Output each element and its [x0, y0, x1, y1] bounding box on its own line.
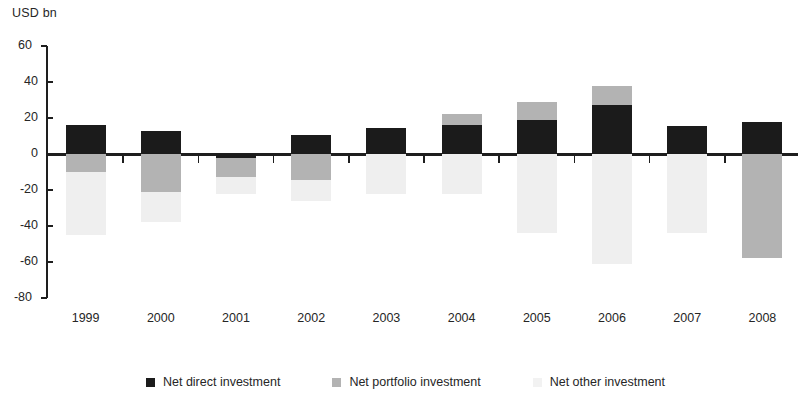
bar-segment-other	[291, 180, 331, 201]
bar-segment-portfolio	[742, 154, 782, 258]
x-axis-label-2008: 2008	[748, 312, 776, 325]
bar-group	[667, 46, 707, 298]
x-tick	[348, 156, 350, 163]
x-axis-label-2002: 2002	[297, 312, 325, 325]
legend-swatch-direct-icon	[146, 378, 155, 387]
bars-layer	[46, 46, 798, 298]
bar-segment-direct	[517, 120, 557, 154]
bar-segment-direct	[442, 125, 482, 154]
bar-group	[517, 46, 557, 298]
legend-swatch-other-icon	[533, 378, 542, 387]
x-tick	[423, 156, 425, 163]
x-axis-labels: 1999200020012002200320042005200620072008	[46, 312, 798, 334]
x-tick	[574, 156, 576, 163]
y-axis-unit-caption: USD bn	[12, 6, 57, 20]
bar-segment-direct	[366, 128, 406, 154]
bar-segment-portfolio	[141, 154, 181, 192]
bar-group	[742, 46, 782, 298]
y-tick-label: 20	[24, 111, 38, 124]
x-axis-label-1999: 1999	[72, 312, 100, 325]
bar-segment-direct	[291, 135, 331, 154]
legend-label: Net other investment	[550, 376, 665, 389]
bar-segment-other	[366, 154, 406, 194]
bar-segment-portfolio	[517, 102, 557, 120]
bar-segment-portfolio	[216, 158, 256, 178]
legend-item-other: Net other investment	[533, 376, 665, 389]
legend-label: Net portfolio investment	[349, 376, 480, 389]
x-tick	[122, 156, 124, 163]
y-tick-label: -60	[20, 255, 38, 268]
bar-segment-other	[442, 154, 482, 194]
bar-segment-other	[141, 192, 181, 223]
x-tick	[498, 156, 500, 163]
bar-segment-portfolio	[442, 114, 482, 125]
bar-group	[291, 46, 331, 298]
y-tick-label: 40	[24, 75, 38, 88]
x-axis-label-2004: 2004	[448, 312, 476, 325]
bar-segment-direct	[66, 125, 106, 154]
x-axis-label-2005: 2005	[523, 312, 551, 325]
x-tick	[649, 156, 651, 163]
bar-segment-other	[667, 154, 707, 233]
bar-segment-direct	[592, 105, 632, 154]
chart-legend: Net direct investmentNet portfolio inves…	[0, 376, 811, 389]
bar-group	[366, 46, 406, 298]
bar-segment-direct	[742, 122, 782, 154]
legend-item-direct: Net direct investment	[146, 376, 280, 389]
bar-segment-direct	[667, 126, 707, 154]
x-tick	[273, 156, 275, 163]
bar-segment-direct	[141, 131, 181, 154]
bar-group	[592, 46, 632, 298]
y-tick-label: 60	[18, 39, 32, 52]
x-axis-label-2007: 2007	[673, 312, 701, 325]
x-tick	[198, 156, 200, 163]
y-tick-label: -20	[20, 183, 38, 196]
y-tick-label: -80	[14, 291, 32, 304]
x-axis-label-2003: 2003	[372, 312, 400, 325]
bar-segment-portfolio	[66, 154, 106, 172]
bar-segment-portfolio	[291, 154, 331, 180]
legend-swatch-portfolio-icon	[332, 378, 341, 387]
bar-segment-other	[517, 154, 557, 233]
bar-group	[216, 46, 256, 298]
bar-group	[442, 46, 482, 298]
bar-group	[141, 46, 181, 298]
bar-group	[66, 46, 106, 298]
x-axis-label-2000: 2000	[147, 312, 175, 325]
stacked-bar-chart: USD bn 6040200-20-40-60-80 1999200020012…	[0, 0, 811, 398]
bar-segment-portfolio	[592, 86, 632, 106]
bar-segment-other	[66, 172, 106, 235]
legend-item-portfolio: Net portfolio investment	[332, 376, 480, 389]
legend-label: Net direct investment	[163, 376, 280, 389]
y-tick-label: -40	[20, 219, 38, 232]
y-tick-label: 0	[31, 147, 38, 160]
plot-area: 6040200-20-40-60-80	[46, 46, 798, 298]
x-axis-label-2001: 2001	[222, 312, 250, 325]
x-axis-label-2006: 2006	[598, 312, 626, 325]
x-tick	[724, 156, 726, 163]
bar-segment-other	[216, 177, 256, 193]
bar-segment-other	[592, 154, 632, 264]
